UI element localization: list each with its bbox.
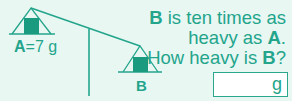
label-a-value: =7 g <box>26 38 58 55</box>
q-bold-a: A <box>267 27 280 48</box>
q-text: is ten times as <box>163 7 286 28</box>
answer-input[interactable] <box>216 75 276 96</box>
weight-a <box>24 18 39 34</box>
weight-b-label: B <box>136 77 147 94</box>
weight-a-label: A=7 g <box>14 38 57 56</box>
answer-box[interactable]: g <box>213 72 288 97</box>
question-text: B is ten times as heavy as A. How heavy … <box>147 8 286 68</box>
question-line-1: B is ten times as <box>147 8 286 28</box>
q-bold-b: B <box>149 7 162 28</box>
label-a-letter: A <box>14 38 26 55</box>
q-text: . <box>281 27 286 48</box>
q-text: heavy as <box>188 27 267 48</box>
q-text: ? <box>276 47 286 68</box>
q-bold-b: B <box>262 47 275 68</box>
question-line-3: How heavy is B? <box>147 48 286 68</box>
unit-label: g <box>272 74 282 95</box>
q-text: How heavy is <box>147 47 262 68</box>
weight-b <box>133 57 148 72</box>
question-line-2: heavy as A. <box>147 28 286 48</box>
